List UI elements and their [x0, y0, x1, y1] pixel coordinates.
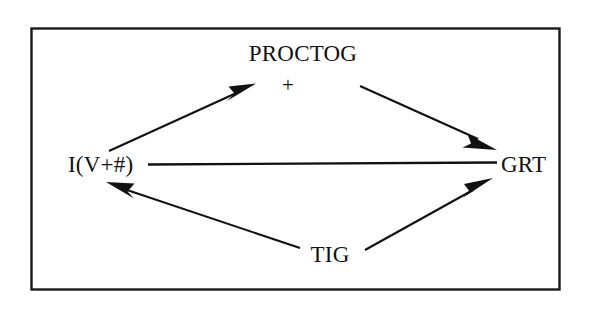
node-label-iv: I(V+#): [68, 152, 133, 177]
edge-iv-to-grt: [148, 163, 497, 165]
diagram-canvas: PROCTOG + I(V+#) GRT TIG: [0, 0, 601, 311]
arrowhead-icon: [463, 178, 494, 198]
node-label-grt: GRT: [501, 152, 546, 177]
arrowhead-icon: [463, 134, 498, 150]
node-label-tig: TIG: [311, 242, 350, 267]
node-label-proctog: PROCTOG: [249, 41, 357, 66]
edge-tig-to-iv: [106, 182, 300, 248]
arrowhead-icon: [227, 84, 256, 102]
edge-proctog-to-grt: [360, 86, 497, 150]
edge-tig-to-grt: [365, 178, 493, 250]
diagram-svg: PROCTOG + I(V+#) GRT TIG: [0, 0, 601, 311]
edge-iv-to-proctog: [109, 84, 256, 152]
node-label-plus: +: [282, 73, 294, 97]
